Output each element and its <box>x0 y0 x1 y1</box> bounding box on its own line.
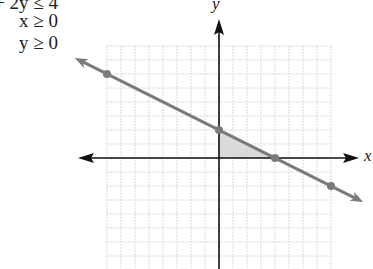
graph <box>0 0 373 269</box>
x-axis-label: x <box>364 146 372 166</box>
y-axis-label: y <box>212 0 220 14</box>
